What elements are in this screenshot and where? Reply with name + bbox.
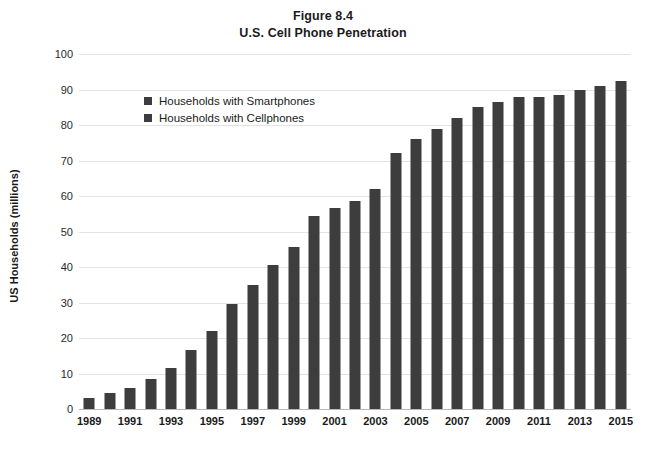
bar-2006[interactable]: [431, 129, 442, 409]
bar-slot-2007: [447, 54, 467, 409]
y-tick-label-90: 90: [33, 84, 73, 96]
bar-2005[interactable]: [411, 139, 422, 409]
legend-item-1[interactable]: Households with Cellphones: [144, 109, 315, 126]
bar-2004[interactable]: [390, 153, 401, 409]
bar-slot-2015: [611, 54, 631, 409]
bar-1997[interactable]: [247, 285, 258, 409]
bar-2000[interactable]: [309, 216, 320, 409]
legend-swatch-icon-0: [144, 97, 152, 105]
gridline-0: [79, 409, 631, 410]
bar-2008[interactable]: [472, 107, 483, 409]
chart-title-line-1: Figure 8.4: [0, 8, 646, 25]
x-tick-label-1999: 1999: [281, 415, 305, 427]
x-tick-label-2011: 2011: [527, 415, 551, 427]
bar-slot-2003: [365, 54, 385, 409]
x-tick-label-2001: 2001: [322, 415, 346, 427]
bar-2014[interactable]: [595, 86, 606, 409]
y-tick-label-70: 70: [33, 155, 73, 167]
y-tick-label-60: 60: [33, 190, 73, 202]
bar-1998[interactable]: [268, 265, 279, 409]
x-tick-label-2013: 2013: [568, 415, 592, 427]
y-tick-label-100: 100: [33, 48, 73, 60]
x-tick-label-1993: 1993: [159, 415, 183, 427]
bar-slot-2004: [386, 54, 406, 409]
bar-slot-2014: [590, 54, 610, 409]
y-axis-title: US Households (millions): [8, 136, 20, 336]
bar-slot-2012: [549, 54, 569, 409]
bar-2009[interactable]: [493, 102, 504, 409]
bar-2012[interactable]: [554, 95, 565, 409]
bar-slot-1989: [79, 54, 99, 409]
legend-swatch-icon-1: [144, 114, 152, 122]
bar-1999[interactable]: [288, 247, 299, 409]
y-tick-label-0: 0: [33, 403, 73, 415]
legend-label-1: Households with Cellphones: [159, 112, 304, 124]
legend-label-0: Households with Smartphones: [159, 95, 315, 107]
x-tick-label-2007: 2007: [445, 415, 469, 427]
bar-slot-2005: [406, 54, 426, 409]
x-tick-label-2005: 2005: [404, 415, 428, 427]
chart-title-line-2: U.S. Cell Phone Penetration: [0, 25, 646, 42]
bar-2010[interactable]: [513, 97, 524, 409]
bar-slot-2013: [570, 54, 590, 409]
bar-1993[interactable]: [165, 368, 176, 409]
x-tick-label-1995: 1995: [200, 415, 224, 427]
x-tick-label-2009: 2009: [486, 415, 510, 427]
bar-slot-1990: [99, 54, 119, 409]
chart-title-block: Figure 8.4 U.S. Cell Phone Penetration: [0, 8, 646, 42]
bar-slot-2002: [345, 54, 365, 409]
bar-slot-2009: [488, 54, 508, 409]
x-tick-label-2015: 2015: [609, 415, 633, 427]
bar-1995[interactable]: [206, 331, 217, 409]
bar-2013[interactable]: [574, 90, 585, 410]
bar-1996[interactable]: [227, 304, 238, 409]
legend-item-0[interactable]: Households with Smartphones: [144, 92, 315, 109]
bar-1992[interactable]: [145, 379, 156, 409]
bar-2002[interactable]: [349, 201, 360, 409]
y-tick-label-10: 10: [33, 368, 73, 380]
bar-slot-2011: [529, 54, 549, 409]
bar-slot-2001: [324, 54, 344, 409]
x-tick-label-1991: 1991: [118, 415, 142, 427]
bar-2015[interactable]: [615, 81, 626, 409]
x-tick-label-1989: 1989: [77, 415, 101, 427]
y-tick-label-20: 20: [33, 332, 73, 344]
bar-1994[interactable]: [186, 350, 197, 409]
bar-2003[interactable]: [370, 189, 381, 409]
bar-2011[interactable]: [533, 97, 544, 409]
x-tick-label-1997: 1997: [241, 415, 265, 427]
chart-legend: Households with SmartphonesHouseholds wi…: [144, 92, 315, 126]
y-tick-label-50: 50: [33, 226, 73, 238]
y-tick-label-80: 80: [33, 119, 73, 131]
bar-1989[interactable]: [84, 398, 95, 409]
y-tick-label-40: 40: [33, 261, 73, 273]
bar-1990[interactable]: [104, 393, 115, 409]
bar-slot-2006: [427, 54, 447, 409]
figure-container: Figure 8.4 U.S. Cell Phone Penetration U…: [0, 0, 646, 461]
bar-1991[interactable]: [125, 388, 136, 409]
bar-slot-1991: [120, 54, 140, 409]
bar-slot-2010: [508, 54, 528, 409]
bar-2007[interactable]: [452, 118, 463, 409]
x-tick-label-2003: 2003: [363, 415, 387, 427]
bar-slot-2008: [467, 54, 487, 409]
y-tick-label-30: 30: [33, 297, 73, 309]
bar-2001[interactable]: [329, 208, 340, 409]
